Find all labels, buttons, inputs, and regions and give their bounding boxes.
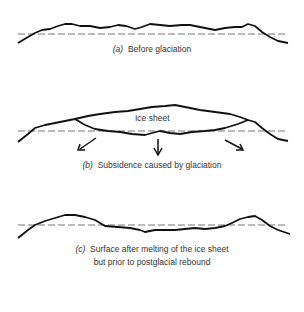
- caption-c-line1: (c) Surface after melting of the ice she…: [0, 244, 304, 255]
- caption-c-line2: but prior to postglacial rebound: [0, 257, 304, 268]
- panel-a-drawing: [18, 24, 288, 43]
- panel-c-drawing: [18, 215, 290, 238]
- glaciation-diagram: Ice sheet (a) Before glaciation (b) Subs…: [0, 0, 304, 312]
- caption-b: (b) Subsidence caused by glaciation: [0, 160, 304, 171]
- caption-b-letter: (b): [83, 160, 93, 170]
- caption-b-text: Subsidence caused by glaciation: [98, 160, 222, 170]
- land-surface-c: [18, 215, 290, 238]
- subsidence-arrow-down: [154, 139, 162, 155]
- caption-a: (a) Before glaciation: [0, 44, 304, 55]
- ice-sheet-label: Ice sheet: [135, 113, 170, 123]
- caption-a-letter: (a): [113, 44, 123, 54]
- caption-c-text-line1: Surface after melting of the ice sheet: [90, 244, 228, 254]
- caption-a-text: Before glaciation: [128, 44, 191, 54]
- subsidence-arrow-left: [78, 138, 96, 150]
- caption-c-letter: (c): [75, 244, 85, 254]
- subsidence-arrow-right: [225, 140, 243, 150]
- caption-c-text-line2: but prior to postglacial rebound: [94, 257, 211, 267]
